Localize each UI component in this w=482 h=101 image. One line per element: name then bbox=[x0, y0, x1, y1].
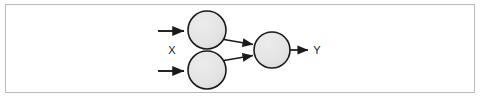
output-label: Y bbox=[313, 44, 321, 56]
figure-root: X Y bbox=[0, 0, 482, 101]
input-label: X bbox=[168, 44, 176, 56]
output-node bbox=[254, 32, 290, 68]
edge-top-to-output bbox=[224, 40, 253, 45]
hidden-node-bottom bbox=[188, 51, 226, 89]
hidden-node-top bbox=[188, 11, 226, 49]
node-group bbox=[188, 11, 290, 89]
edge-bottom-to-output bbox=[224, 56, 253, 61]
neural-network-diagram: X Y bbox=[0, 0, 482, 101]
